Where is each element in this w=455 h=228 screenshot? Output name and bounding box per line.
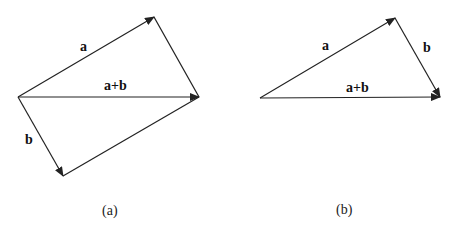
label-a: a (322, 38, 329, 53)
vector-b (395, 18, 440, 97)
label-b: b (25, 132, 33, 147)
vector-a (260, 18, 395, 98)
diagram-b: a b a+b (b) (260, 18, 440, 218)
label-a: a (80, 39, 87, 54)
caption-a: (a) (102, 203, 118, 219)
label-sum: a+b (346, 80, 369, 95)
label-b: b (423, 40, 431, 55)
vector-addition-figure: a a+b b (a) a b a+b (b) (0, 0, 455, 228)
vector-sum (260, 97, 440, 98)
vector-a (18, 17, 154, 97)
parallelogram-side-a (63, 97, 199, 176)
label-sum: a+b (104, 78, 127, 93)
parallelogram-side-b (154, 17, 199, 97)
caption-b: (b) (336, 202, 353, 218)
diagram-a: a a+b b (a) (18, 17, 199, 219)
